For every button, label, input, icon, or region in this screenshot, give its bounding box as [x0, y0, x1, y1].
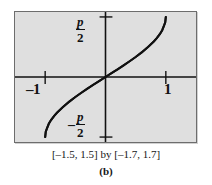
fraction-denominator: 2: [76, 126, 85, 139]
fraction-denominator: 2: [76, 31, 85, 44]
fraction-stack: p 2: [76, 110, 85, 139]
fraction-neg-pi-over-2: – p 2: [68, 110, 85, 139]
panel-label: (b): [0, 165, 212, 177]
viewing-window-caption: [–1.5, 1.5] by [–1.7, 1.7]: [0, 148, 212, 160]
y-tick-label-pi-over-2: p 2: [76, 13, 85, 44]
y-tick-label-neg-pi-over-2: – p 2: [68, 110, 85, 139]
fraction-pi-over-2: p 2: [76, 15, 85, 44]
fraction-numerator: p: [76, 110, 85, 123]
x-tick-label-pos1: 1: [164, 82, 172, 97]
figure-panel: –1 1 p 2 – p 2 [–1.5, 1.5] by [–1.7, 1.7…: [0, 0, 212, 185]
fraction-numerator: p: [76, 15, 85, 28]
plot-frame: [14, 11, 197, 143]
plot-canvas: [15, 12, 196, 142]
minus-sign: –: [68, 118, 75, 132]
fraction-stack: p 2: [76, 15, 85, 44]
x-tick-label-neg1: –1: [26, 82, 40, 97]
